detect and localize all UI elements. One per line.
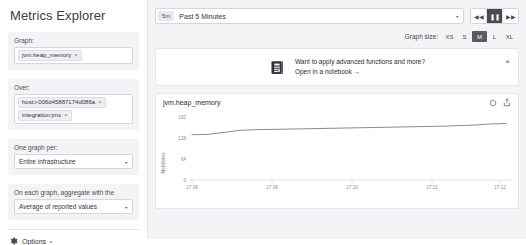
one-graph-per-block: One graph per: Entire infrastructure ▾ bbox=[8, 139, 139, 175]
y-tick-0: 0 bbox=[183, 178, 186, 183]
graph-size-label: Graph size: bbox=[405, 33, 438, 40]
refresh-icon[interactable] bbox=[489, 99, 497, 107]
x-tick-1708: 17:08 bbox=[186, 185, 198, 190]
y-tick-192: 192 bbox=[178, 115, 186, 120]
aggregate-select[interactable]: Average of reported values ▾ bbox=[14, 199, 133, 214]
time-range-select[interactable]: 5m Past 5 Minutes ▾ bbox=[155, 8, 464, 24]
x-tick-1711: 17:11 bbox=[426, 185, 438, 190]
chevron-right-icon: ▸ bbox=[50, 239, 53, 244]
scope-tag-integration[interactable]: integration:jmx × bbox=[18, 110, 72, 121]
notebook-promo-banner: Want to apply advanced functions and mor… bbox=[155, 48, 519, 86]
chart-plot-area[interactable]: Mebibytes 192 128 64 0 17:08 bbox=[156, 107, 518, 199]
over-field-label: Over: bbox=[14, 84, 133, 91]
banner-link[interactable]: Open in a notebook → bbox=[295, 67, 425, 77]
graph-card: jvm.heap_memory bbox=[155, 93, 519, 209]
graph-metric-input[interactable]: jvm.heap_memory × bbox=[14, 47, 133, 64]
graph-size-m[interactable]: M bbox=[472, 31, 487, 42]
metric-tag[interactable]: jvm.heap_memory × bbox=[18, 50, 82, 61]
x-tick-1710: 17:10 bbox=[346, 185, 358, 190]
aggregate-block: On each graph, aggregate with the Averag… bbox=[8, 184, 139, 220]
one-graph-per-label: One graph per: bbox=[14, 144, 133, 151]
chevron-down-icon: ▾ bbox=[456, 14, 459, 19]
time-toolbar: 5m Past 5 Minutes ▾ ◀◀ ❚❚ ▶▶ bbox=[155, 8, 519, 24]
one-graph-per-select[interactable]: Entire infrastructure ▾ bbox=[14, 154, 133, 169]
playback-controls: ◀◀ ❚❚ ▶▶ bbox=[470, 8, 519, 24]
banner-headline: Want to apply advanced functions and mor… bbox=[295, 57, 425, 67]
graph-size-options: XS S M L XL bbox=[442, 31, 517, 42]
export-icon[interactable] bbox=[503, 98, 511, 107]
gear-icon bbox=[10, 237, 18, 245]
scope-tag-integration-label: integration:jmx bbox=[22, 111, 61, 120]
graph-card-title: jvm.heap_memory bbox=[163, 99, 221, 106]
graph-field-label: Graph: bbox=[14, 37, 133, 44]
aggregate-value: Average of reported values bbox=[19, 203, 97, 210]
time-range-label: Past 5 Minutes bbox=[179, 13, 225, 20]
scope-tag-host[interactable]: host:i-006d45887174d086a × bbox=[18, 97, 106, 108]
chevron-down-icon: ▾ bbox=[125, 204, 128, 209]
metrics-explorer-app: Metrics Explorer Graph: jvm.heap_memory … bbox=[0, 0, 526, 239]
graph-size-xs[interactable]: XS bbox=[442, 31, 457, 42]
options-label: Options bbox=[22, 238, 46, 245]
scope-tag-host-label: host:i-006d45887174d086a bbox=[22, 98, 95, 107]
close-icon[interactable]: × bbox=[505, 58, 510, 66]
pause-button[interactable]: ❚❚ bbox=[487, 9, 503, 23]
graph-size-l[interactable]: L bbox=[487, 31, 502, 42]
y-tick-128: 128 bbox=[178, 136, 186, 141]
time-range-badge: 5m bbox=[158, 11, 174, 21]
step-back-button[interactable]: ◀◀ bbox=[471, 9, 487, 23]
metric-tag-label: jvm.heap_memory bbox=[22, 51, 71, 60]
y-tick-64: 64 bbox=[181, 157, 187, 162]
options-toggle[interactable]: Options ▸ bbox=[8, 237, 139, 245]
sidebar-divider bbox=[8, 229, 139, 230]
x-tick-1709: 17:09 bbox=[266, 185, 278, 190]
one-graph-per-value: Entire infrastructure bbox=[19, 158, 76, 165]
line-chart: Mebibytes 192 128 64 0 17:08 bbox=[156, 107, 518, 199]
graph-size-s[interactable]: S bbox=[457, 31, 472, 42]
step-forward-button[interactable]: ▶▶ bbox=[503, 9, 518, 23]
y-axis-label: Mebibytes bbox=[161, 152, 166, 174]
main-content: 5m Past 5 Minutes ▾ ◀◀ ❚❚ ▶▶ Graph size:… bbox=[148, 0, 526, 239]
x-tick-1712: 17:12 bbox=[494, 185, 506, 190]
graph-size-xl[interactable]: XL bbox=[502, 31, 517, 42]
page-title: Metrics Explorer bbox=[10, 8, 139, 23]
aggregate-label: On each graph, aggregate with the bbox=[14, 189, 133, 196]
over-scope-input[interactable]: host:i-006d45887174d086a × integration:j… bbox=[14, 94, 133, 124]
remove-tag-icon[interactable]: × bbox=[98, 98, 102, 107]
series-line-jvm-heap-memory bbox=[192, 124, 506, 135]
graph-field-block: Graph: jvm.heap_memory × bbox=[8, 32, 139, 70]
sidebar: Metrics Explorer Graph: jvm.heap_memory … bbox=[0, 0, 148, 239]
remove-tag-icon[interactable]: × bbox=[64, 111, 68, 120]
graph-size-control: Graph size: XS S M L XL bbox=[155, 31, 519, 42]
over-field-block: Over: host:i-006d45887174d086a × integra… bbox=[8, 79, 139, 130]
chevron-down-icon: ▾ bbox=[125, 159, 128, 164]
graph-card-header: jvm.heap_memory bbox=[156, 94, 518, 107]
graph-card-actions bbox=[489, 98, 511, 107]
remove-tag-icon[interactable]: × bbox=[74, 51, 78, 60]
notebook-icon bbox=[269, 59, 286, 76]
